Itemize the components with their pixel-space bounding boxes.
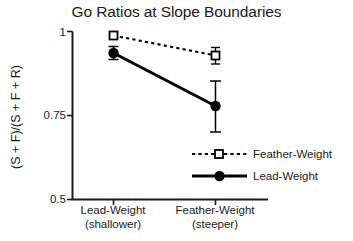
marker-lead-weight-1	[108, 48, 118, 58]
chart-figure: Go Ratios at Slope Boundaries (S + F)/(S…	[0, 0, 353, 241]
series-feather-weight-line	[114, 36, 216, 56]
marker-feather-weight-1	[110, 32, 118, 40]
marker-feather-weight-2	[212, 52, 220, 60]
series-lead-weight	[108, 47, 221, 133]
marker-lead-weight-2	[210, 101, 220, 111]
axes	[67, 32, 268, 206]
series-lead-weight-line	[114, 53, 216, 106]
plot-svg	[0, 0, 353, 241]
legend-swatch-feather-weight	[192, 150, 247, 158]
legend-swatch-lead-weight	[192, 171, 247, 181]
